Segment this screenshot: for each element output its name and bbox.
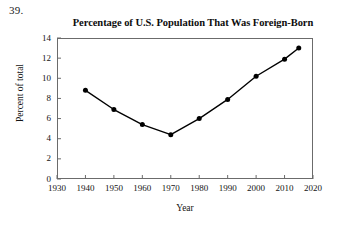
data-point	[197, 116, 202, 121]
data-point	[168, 132, 173, 137]
data-series-line	[85, 48, 298, 135]
plot-svg	[0, 0, 343, 228]
data-point	[254, 74, 259, 79]
data-point	[225, 97, 230, 102]
data-point	[83, 88, 88, 93]
figure-container: 39. Percentage of U.S. Population That W…	[0, 0, 343, 228]
data-point	[282, 57, 287, 62]
data-point	[140, 122, 145, 127]
data-point-markers	[83, 46, 301, 138]
axis-ticks	[57, 38, 313, 179]
data-point	[111, 107, 116, 112]
data-point	[296, 46, 301, 51]
